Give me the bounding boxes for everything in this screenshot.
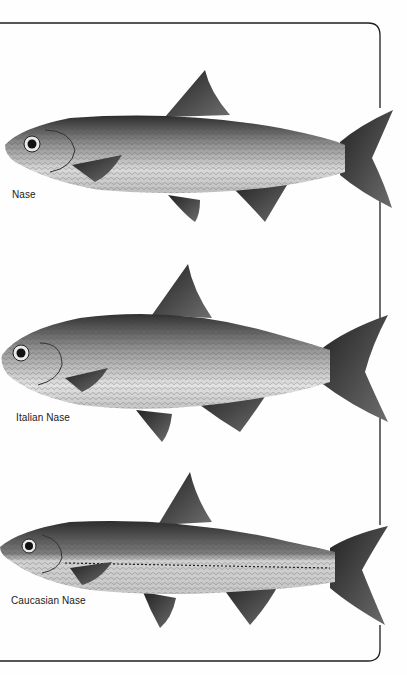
caption-nase: Nase: [12, 189, 36, 200]
caption-italian-nase: Italian Nase: [16, 412, 70, 423]
caption-caucasian-nase: Caucasian Nase: [11, 595, 86, 606]
fish-illustration-caucasian-nase: [0, 465, 407, 640]
fish-illustration-nase: [0, 60, 407, 230]
book-page: Nase Italian Nase: [0, 0, 407, 675]
